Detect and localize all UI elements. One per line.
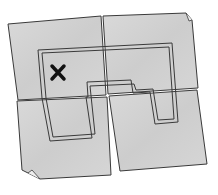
map-piece-top-left (8, 16, 106, 100)
torn-map-illustration (0, 0, 218, 195)
map-piece-bottom-left (17, 97, 111, 179)
map-piece-top-right (103, 13, 198, 94)
map-piece-bottom-right (109, 90, 207, 171)
